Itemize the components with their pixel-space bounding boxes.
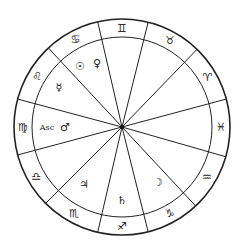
aries-sign-icon: ♈ [203,71,213,84]
gemini-sign-icon: ♊ [117,22,127,35]
leo-sign-icon: ♌ [32,70,42,83]
sagittarius-sign-icon: ♐ [117,220,127,233]
house-cusp-line [122,127,226,157]
mars-icon: ♂ [60,121,70,134]
aquarius-sign-icon: ♒ [202,171,212,184]
jupiter-icon: ♃ [79,178,89,191]
moon-icon: ☽ [153,176,163,189]
venus-icon: ♀ [93,57,101,70]
center-point [120,125,124,129]
pisces-sign-icon: ♓ [216,121,226,134]
mercury-icon: ☿ [56,81,63,94]
ascendant-icon: Asc [39,123,55,132]
house-cusp-line [122,49,197,127]
sun-icon: ☉ [75,60,85,73]
virgo-sign-icon: ♍ [18,121,28,134]
taurus-sign-icon: ♉ [165,34,175,47]
house-cusp-line [46,127,122,203]
capricorn-sign-icon: ♑ [165,207,175,220]
saturn-icon: ♄ [117,194,127,207]
house-cusp-line [122,127,196,206]
astrological-chart: ♊♉♈♓♒♑♐♏♎♍♌♋ ☉♀☿Asc♂♃♄☽ [0,0,244,252]
cancer-sign-icon: ♋ [71,33,81,46]
libra-sign-icon: ♎ [31,170,41,183]
planet-glyphs: ☉♀☿Asc♂♃♄☽ [39,57,163,207]
scorpio-sign-icon: ♏ [69,207,79,220]
